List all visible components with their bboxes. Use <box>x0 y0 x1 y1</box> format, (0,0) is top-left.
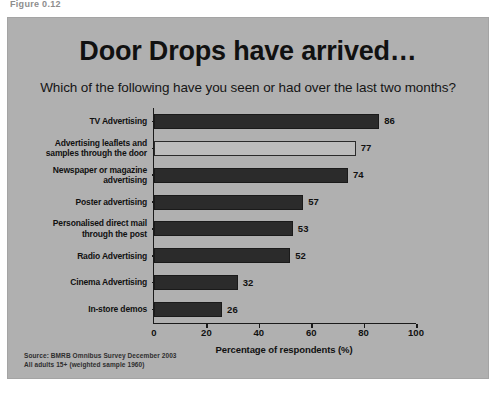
category-label: Poster advertising <box>17 189 147 216</box>
category-label: TV Advertising <box>17 108 147 135</box>
x-axis-tick-label: 100 <box>396 327 436 338</box>
bar-value-label: 74 <box>353 169 364 181</box>
bar-row: In-store demos26 <box>17 296 418 323</box>
category-label: Cinema Advertising <box>17 269 147 296</box>
source-line-2: All adults 15+ (weighted sample 1960) <box>24 361 177 370</box>
bar-value-label: 53 <box>298 223 309 235</box>
category-label: Advertising leaflets andsamples through … <box>17 135 147 162</box>
bar-value-label: 57 <box>308 196 319 208</box>
bar <box>154 275 238 290</box>
source-line-1: Source: BMRB Omnibus Survey December 200… <box>24 352 177 361</box>
category-label: Newspaper or magazineadvertising <box>17 162 147 189</box>
bar-row: Personalised direct mailthrough the post… <box>17 216 418 243</box>
bar-chart: TV Advertising86Advertising leaflets and… <box>16 108 480 338</box>
category-label: Personalised direct mailthrough the post <box>17 216 147 243</box>
x-axis-tick-label: 20 <box>186 327 226 338</box>
bar-value-label: 32 <box>243 277 254 289</box>
x-axis-tick-label: 40 <box>239 327 279 338</box>
x-axis-tick-label: 60 <box>291 327 331 338</box>
bar <box>154 114 379 129</box>
bar <box>154 302 222 317</box>
bar-row: Cinema Advertising32 <box>17 269 418 296</box>
bar <box>154 141 356 156</box>
bar-row: Newspaper or magazineadvertising74 <box>17 162 418 189</box>
plot-area: TV Advertising86Advertising leaflets and… <box>153 108 416 324</box>
bar-row: TV Advertising86 <box>17 108 418 135</box>
x-axis-title: Percentage of respondents (%) <box>153 344 415 355</box>
bar-row: Advertising leaflets andsamples through … <box>17 135 418 162</box>
bar-value-label: 86 <box>384 115 395 127</box>
bar-value-label: 77 <box>361 142 372 154</box>
x-axis-tick-label: 80 <box>344 327 384 338</box>
bar <box>154 221 293 236</box>
x-axis-tick-label: 0 <box>134 327 174 338</box>
bar-value-label: 26 <box>227 304 238 316</box>
category-label: Radio Advertising <box>17 242 147 269</box>
slide-title: Door Drops have arrived… <box>8 36 488 67</box>
bar <box>154 168 348 183</box>
slide-subtitle: Which of the following have you seen or … <box>8 80 488 95</box>
bar-row: Poster advertising57 <box>17 189 418 216</box>
slide-panel: Door Drops have arrived… Which of the fo… <box>8 18 488 378</box>
category-label: In-store demos <box>17 296 147 323</box>
bar-row: Radio Advertising52 <box>17 242 418 269</box>
bar-value-label: 52 <box>295 250 306 262</box>
bar <box>154 248 290 263</box>
bar <box>154 195 303 210</box>
source-note: Source: BMRB Omnibus Survey December 200… <box>24 352 177 369</box>
page-figure-caption-cropped: Figure 0.12 <box>10 0 130 9</box>
